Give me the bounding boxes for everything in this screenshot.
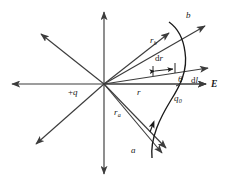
label-r-b: rb	[150, 36, 157, 46]
label-r: r	[137, 88, 141, 97]
label-dr: dr	[155, 54, 163, 63]
label-dl: dl	[191, 76, 198, 85]
label-charge: +q	[68, 88, 78, 97]
path-direction-arrow	[150, 124, 153, 132]
label-point-a: a	[131, 146, 136, 155]
label-test-charge: q0	[174, 94, 182, 104]
figure-canvas	[0, 0, 231, 186]
physics-figure: +q E q0 r ra rb a b θ dr dl	[0, 0, 231, 186]
label-r-a: ra	[114, 108, 121, 118]
dr-span	[155, 69, 173, 71]
field-line-upper-left	[41, 34, 104, 84]
label-theta: θ	[178, 75, 182, 84]
label-field-e: E	[211, 79, 217, 89]
label-point-b: b	[186, 11, 191, 20]
